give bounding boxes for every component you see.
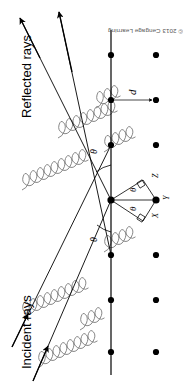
theta-bottom-label: θ <box>89 237 99 242</box>
path-difference-triangle <box>111 180 156 222</box>
lattice-dot <box>153 142 159 148</box>
theta-center-lower-label: θ <box>129 207 138 211</box>
lattice-dot <box>108 297 114 303</box>
point-y-label: Y <box>163 196 171 200</box>
theta-top-label: θ <box>89 149 99 154</box>
lattice-dot <box>108 52 114 58</box>
lattice-dot <box>152 196 159 203</box>
lattice-dot <box>108 252 114 258</box>
reflected-wave-ray-2 <box>58 101 118 138</box>
lattice-dot <box>153 297 159 303</box>
lattice-dot <box>153 52 159 58</box>
lattice-dot <box>153 252 159 258</box>
copyright-label: © 2013 Cengage Learning <box>108 28 183 34</box>
theta-center-upper-label: θ <box>129 188 138 192</box>
lattice-dot <box>153 349 159 355</box>
lattice-dot <box>108 142 114 148</box>
spacing-d-label: d <box>127 90 138 96</box>
reflected-wave-ray-1 <box>22 150 89 190</box>
lattice-dot <box>108 349 114 355</box>
point-x-label: X <box>152 213 160 218</box>
figure-canvas: Reflected rays Incident rays © 2013 Ceng… <box>0 0 190 383</box>
lattice-dot <box>107 196 114 203</box>
incident-rays-label: Incident rays <box>20 295 33 369</box>
lattice-dot <box>153 97 159 103</box>
point-z-label: Z <box>152 174 160 178</box>
lattice-dot <box>108 97 114 103</box>
reflected-rays-label: Reflected rays <box>20 35 33 118</box>
